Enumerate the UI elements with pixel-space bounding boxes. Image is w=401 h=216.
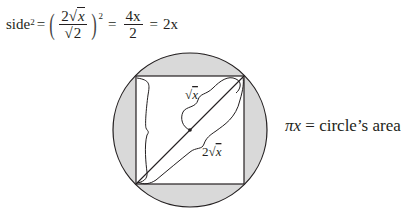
circle-square-figure: √x 2√x [0,0,401,216]
caption-text: = circle’s area [301,116,401,135]
label-2-root-x: 2√x [202,144,222,159]
circle-area-caption: πx = circle’s area [285,116,401,136]
caption-pi-x: πx [285,116,301,135]
label-root-x: √x [185,87,198,102]
